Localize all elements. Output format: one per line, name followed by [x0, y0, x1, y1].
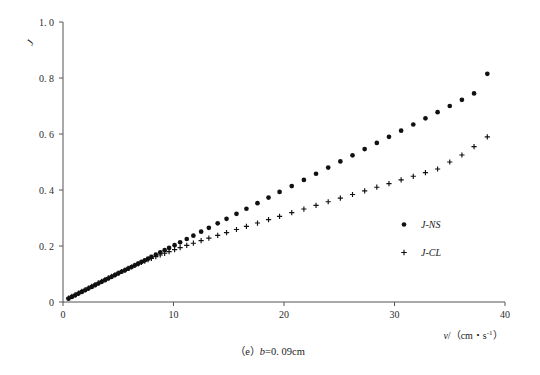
y-tick-label: 0: [49, 297, 54, 308]
x-axis-title: v/（cm・s-1）: [443, 329, 502, 341]
data-point-plus: [224, 230, 229, 235]
data-point-dot: [374, 141, 379, 146]
data-point-plus: [255, 220, 260, 225]
dot-marker-icon: [402, 222, 407, 227]
data-point-dot: [472, 91, 477, 96]
data-point-plus: [326, 199, 331, 204]
data-point-plus: [399, 177, 404, 182]
data-point-dot: [326, 165, 331, 170]
data-point-dot: [435, 110, 440, 115]
data-point-plus: [289, 210, 294, 215]
data-point-plus: [277, 214, 282, 219]
y-axis-title: J: [24, 37, 36, 47]
data-point-dot: [199, 229, 204, 234]
legend-label: J-NS: [421, 219, 440, 230]
y-tick-label: 1. 0: [39, 17, 54, 28]
data-point-plus: [215, 233, 220, 238]
x-tick-label: 20: [279, 309, 289, 320]
data-point-dot: [423, 116, 428, 121]
figure-caption: （e）b=0. 09cm: [235, 346, 305, 357]
axis-lines: [63, 22, 505, 302]
data-point-plus: [411, 174, 416, 179]
y-tick-label: 0. 8: [39, 73, 54, 84]
data-point-plus: [386, 181, 391, 186]
data-point-plus: [191, 241, 196, 246]
x-tick-label: 30: [390, 309, 400, 320]
data-point-dot: [184, 237, 189, 242]
y-tick-label: 0. 6: [39, 129, 54, 140]
x-tick-label: 0: [61, 309, 66, 320]
data-point-dot: [172, 243, 177, 248]
data-point-dot: [215, 221, 220, 226]
data-point-dot: [207, 225, 212, 230]
legend-label: J-CL: [421, 247, 441, 258]
figure-container: 00. 20. 40. 60. 81. 0010203040Jv/（cm・s-1…: [0, 0, 540, 375]
data-point-plus: [423, 170, 428, 175]
data-point-plus: [206, 236, 211, 241]
data-point-dot: [277, 190, 282, 195]
data-point-plus: [313, 203, 318, 208]
data-point-dot: [387, 134, 392, 139]
data-point-plus: [485, 134, 490, 139]
data-point-dot: [338, 159, 343, 164]
legend-entry-j-ns[interactable]: J-NS: [402, 219, 441, 230]
data-point-plus: [178, 245, 183, 250]
data-point-dot: [399, 128, 404, 133]
plot-area: 00. 20. 40. 60. 81. 0010203040Jv/（cm・s-1…: [24, 17, 510, 357]
data-point-plus: [338, 196, 343, 201]
y-tick-label: 0. 2: [39, 241, 54, 252]
data-point-plus: [374, 185, 379, 190]
data-point-dot: [178, 240, 183, 245]
data-point-plus: [447, 159, 452, 164]
legend-entry-j-cl[interactable]: J-CL: [401, 247, 441, 258]
data-point-dot: [460, 97, 465, 102]
data-point-dot: [447, 104, 452, 109]
data-point-dot: [362, 147, 367, 152]
data-point-plus: [266, 217, 271, 222]
data-point-plus: [172, 247, 177, 252]
data-point-dot: [314, 171, 319, 176]
data-point-plus: [350, 192, 355, 197]
data-point-plus: [184, 243, 189, 248]
series-j-cl: [66, 134, 490, 300]
data-point-dot: [350, 153, 355, 158]
data-point-dot: [411, 122, 416, 127]
data-point-dot: [302, 178, 307, 183]
data-point-dot: [244, 206, 249, 211]
data-point-plus: [301, 206, 306, 211]
data-point-plus: [435, 166, 440, 171]
data-point-dot: [485, 71, 490, 76]
data-point-plus: [199, 238, 204, 243]
data-point-dot: [234, 211, 239, 216]
data-point-plus: [459, 152, 464, 157]
data-point-dot: [289, 184, 294, 189]
plus-marker-icon: [401, 250, 407, 256]
data-point-plus: [234, 227, 239, 232]
data-point-dot: [224, 216, 229, 221]
chart-svg: 00. 20. 40. 60. 81. 0010203040Jv/（cm・s-1…: [0, 0, 540, 375]
data-point-plus: [471, 144, 476, 149]
data-point-plus: [244, 224, 249, 229]
x-tick-label: 40: [500, 309, 510, 320]
x-tick-label: 10: [169, 309, 179, 320]
data-point-dot: [191, 233, 196, 238]
data-point-plus: [362, 188, 367, 193]
data-point-dot: [255, 201, 260, 206]
data-point-dot: [266, 195, 271, 200]
y-tick-label: 0. 4: [39, 185, 54, 196]
